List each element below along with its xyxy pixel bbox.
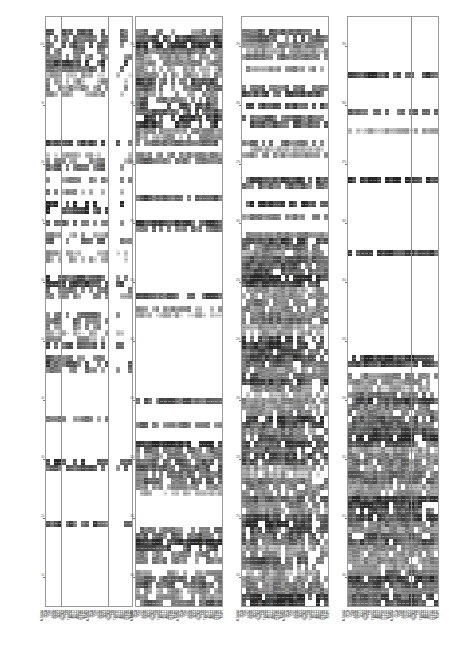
column-separator [108, 16, 109, 607]
heatmap-row [46, 600, 132, 606]
column-separator [61, 16, 62, 607]
heatmap-row: 5.65.18.15.18.01.77.18.81.61.4.295.31.27… [348, 600, 438, 606]
panel-container: 1009080706050403020102.23.03.84.07.56.09… [0, 0, 449, 659]
heatmap-row: 4.47.0.265.38.86.11.88.44.26.27.04.75.75… [136, 600, 222, 606]
panel-1: 1009080706050403020102.23.03.84.07.56.09… [16, 0, 138, 659]
x-tick-label: KEAP1 [222, 609, 224, 653]
heatmap-grid: 9.04.68.02.95.18.14.11.44.73.09.99.04.33… [136, 17, 222, 606]
panel-1-plot-area: 2.23.03.84.07.56.09.41.11.15.06.26.83.02… [45, 16, 133, 607]
column-separator [411, 16, 412, 607]
heatmap-grid: 1.06.06.53.64.0.779.67.13.7.494.21.17.58… [348, 17, 438, 606]
panel-4: 3903803703603503403303203103001.06.06.53… [334, 0, 444, 659]
heatmap-grid: 3.33.58.93.08.53.71.87.44.33.13.9.633.79… [242, 17, 328, 606]
x-tick-label: KEAP1 [438, 609, 440, 653]
figure-root: 1009080706050403020102.23.03.84.07.56.09… [0, 0, 449, 659]
heatmap-cell: 3.9 [218, 600, 222, 606]
heatmap-cell: 1.4 [324, 600, 328, 606]
panel-4-x-axis-labels: ALDH1A1GCLCGCLMGPX2GSRGSTA1GSTM1GSTP1NQO… [344, 609, 440, 653]
x-tick-label-text: KEAP1 [222, 610, 225, 618]
panel-3-x-axis-labels: ALDH1A1GCLCGCLMGPX2GSRGSTA1GSTM1GSTP1NQO… [238, 609, 330, 653]
panel-2-plot-area: 9.04.68.02.95.18.14.11.44.73.09.99.04.33… [135, 16, 223, 607]
panel-3: 2902802702602502402302202102003.33.58.93… [228, 0, 334, 659]
panel-2: 1901801701601501401301201101009.04.68.02… [122, 0, 228, 659]
heatmap-cell: 9.6 [434, 600, 438, 606]
panel-2-x-axis-labels: ALDH1A1GCLCGCLMGPX2GSRGSTA1GSTM1GSTP1NQO… [132, 609, 224, 653]
panel-4-y-axis: 390380370360350340330320310300 [334, 16, 347, 607]
x-tick-label-text: KEAP1 [438, 610, 441, 618]
panel-3-plot-area: 3.33.58.93.08.53.71.87.44.33.13.9.633.79… [241, 16, 329, 607]
panel-1-y-axis: 100908070605040302010 [32, 16, 45, 607]
panel-1-x-axis-labels: ALDH1A1GCLCGCLMGPX2GSRGSTA1GSTM1GSTP1NQO… [42, 609, 134, 653]
heatmap-row: 4.24.6.172.05.44.66.37.74.05.8.442.65.48… [242, 600, 328, 606]
x-tick-label: KEAP1 [328, 609, 330, 653]
heatmap-grid: 2.23.03.84.07.56.09.41.11.15.06.26.83.02… [46, 17, 132, 606]
panel-2-y-axis: 190180170160150140130120110100 [122, 16, 135, 607]
x-tick-label-text: KEAP1 [328, 610, 331, 618]
panel-3-y-axis: 290280270260250240230220210200 [228, 16, 241, 607]
panel-4-plot-area: 1.06.06.53.64.0.779.67.13.7.494.21.17.58… [347, 16, 439, 607]
